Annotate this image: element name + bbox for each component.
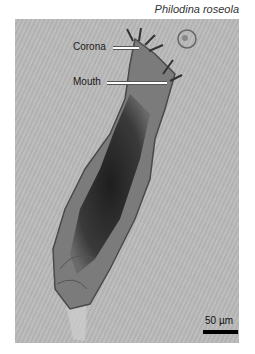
mouth-label: Mouth: [73, 76, 101, 87]
corona-label: Corona: [73, 41, 106, 52]
rotifer-specimen-illustration: [15, 19, 239, 343]
species-name: Philodina roseola: [155, 3, 239, 15]
corona-leader-line: [113, 46, 139, 50]
micrograph: Corona Mouth 50 µm: [15, 19, 239, 343]
mouth-leader-line: [107, 81, 167, 85]
scale-bar-label: 50 µm: [205, 315, 233, 326]
scale-bar: [203, 330, 238, 334]
